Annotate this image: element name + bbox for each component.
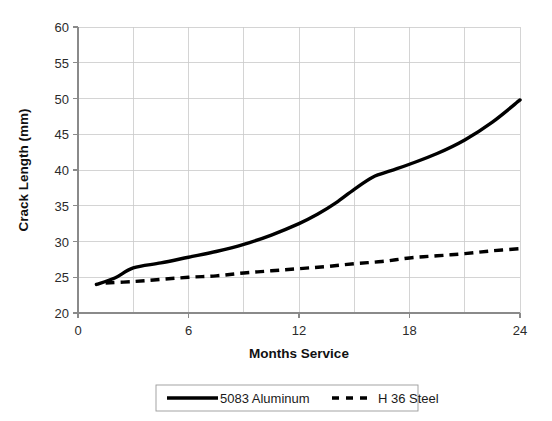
x-tick-label: 12 bbox=[292, 323, 306, 338]
legend-label-5083-aluminum: 5083 Aluminum bbox=[220, 391, 310, 406]
y-tick-label: 35 bbox=[55, 199, 69, 214]
y-axis-tick-labels: 202530354045505560 bbox=[55, 20, 69, 321]
y-tick-label: 55 bbox=[55, 56, 69, 71]
x-tick-label: 0 bbox=[74, 323, 81, 338]
y-tick-label: 40 bbox=[55, 163, 69, 178]
y-tick-label: 50 bbox=[55, 92, 69, 107]
x-axis-title: Months Service bbox=[249, 346, 349, 361]
x-tick-label: 6 bbox=[185, 323, 192, 338]
x-tick-label: 24 bbox=[513, 323, 527, 338]
y-tick-label: 25 bbox=[55, 270, 69, 285]
chart-container: 202530354045505560 06121824 Months Servi… bbox=[0, 0, 552, 421]
y-axis-title: Crack Length (mm) bbox=[16, 108, 31, 231]
legend: 5083 Aluminum H 36 Steel bbox=[156, 385, 439, 411]
x-tick-label: 18 bbox=[402, 323, 416, 338]
y-tick-label: 30 bbox=[55, 235, 69, 250]
y-tick-label: 60 bbox=[55, 20, 69, 35]
crack-growth-line-chart: 202530354045505560 06121824 Months Servi… bbox=[0, 0, 552, 421]
y-tick-label: 45 bbox=[55, 127, 69, 142]
legend-label-h-36-steel: H 36 Steel bbox=[378, 391, 439, 406]
y-tick-label: 20 bbox=[55, 306, 69, 321]
